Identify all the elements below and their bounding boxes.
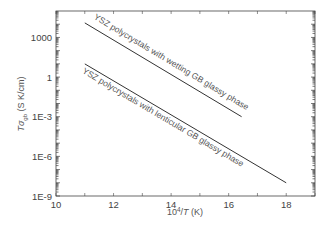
annotation-wetting: YSZ polycrystals with wetting GB glassy … — [92, 12, 251, 112]
x-tick-label: 12 — [108, 199, 119, 210]
chart: 1012141618 100011E-31E-61E-9 YSZ polycry… — [0, 0, 328, 227]
y-axis-ticks: 100011E-31E-61E-9 — [31, 12, 315, 202]
series-wetting-line — [85, 23, 242, 117]
x-axis-label: 104/T (K) — [167, 206, 203, 217]
x-tick-label: 10 — [51, 199, 62, 210]
x-tick-label: 18 — [281, 199, 292, 210]
y-tick-label: 1000 — [31, 32, 52, 43]
plot-frame — [56, 11, 315, 196]
x-tick-label: 16 — [223, 199, 234, 210]
annotation-lenticular: YSZ polycrystals with lenticular GB glas… — [81, 66, 246, 169]
data-series — [85, 23, 286, 183]
y-tick-label: 1E-9 — [32, 191, 52, 202]
y-tick-label: 1E-3 — [32, 111, 52, 122]
y-tick-label: 1E-6 — [32, 151, 52, 162]
x-axis-ticks: 1012141618 — [51, 11, 315, 210]
y-axis-label: Tσgb (S K/cm) — [16, 76, 28, 131]
y-tick-label: 1 — [47, 72, 52, 83]
